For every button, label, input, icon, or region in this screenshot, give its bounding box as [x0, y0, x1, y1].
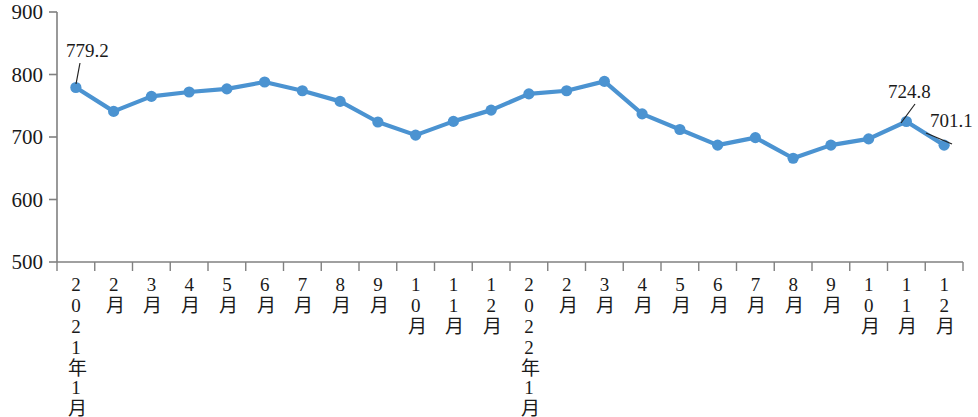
x-axis-tick-label: 11月: [444, 274, 463, 335]
data-point-marker: [788, 153, 799, 164]
x-axis: [57, 262, 963, 271]
x-axis-tick-label: 5月: [670, 274, 689, 314]
data-point-marker: [523, 88, 534, 99]
data-point-marker: [561, 85, 572, 96]
data-point-marker: [184, 86, 195, 97]
data-point-marker: [410, 130, 421, 141]
first-point-label: 779.2: [66, 40, 109, 61]
first-point-label-leader: [76, 63, 80, 84]
dec-2022-label: 701.1: [930, 110, 973, 131]
data-series-line: [70, 76, 949, 164]
data-point-marker: [259, 76, 270, 87]
y-tick-label: 900: [12, 0, 44, 24]
x-axis-tick-label: 9月: [368, 274, 387, 314]
x-axis-tick-label: 10月: [406, 274, 425, 335]
x-axis-tick-label: 2022年1月: [519, 274, 538, 417]
x-axis-tick-label: 10月: [859, 274, 878, 335]
y-tick-label: 500: [12, 250, 44, 274]
y-tick-label: 600: [12, 188, 44, 212]
data-point-marker: [637, 108, 648, 119]
x-axis-tick-label: 8月: [784, 274, 803, 314]
data-point-marker: [108, 106, 119, 117]
x-axis-tick-label: 11月: [897, 274, 916, 335]
x-axis-tick-label: 2021年1月: [66, 274, 85, 417]
x-axis-tick-label: 9月: [821, 274, 840, 314]
x-axis-tick-label: 8月: [331, 274, 350, 314]
data-point-marker: [221, 83, 232, 94]
x-axis-tick-label: 3月: [142, 274, 161, 314]
x-axis-tick-label: 4月: [633, 274, 652, 314]
x-axis-tick-label: 3月: [595, 274, 614, 314]
series-line: [76, 81, 944, 158]
data-point-marker: [863, 133, 874, 144]
x-axis-tick-label: 12月: [935, 274, 954, 335]
data-point-marker: [486, 105, 497, 116]
data-point-marker: [674, 124, 685, 135]
x-axis-tick-label: 7月: [293, 274, 312, 314]
x-axis-tick-label: 4月: [180, 274, 199, 314]
y-tick-label: 700: [12, 125, 44, 149]
y-axis: 500600700800900: [12, 0, 58, 274]
data-point-marker: [825, 140, 836, 151]
data-point-marker: [712, 140, 723, 151]
nov-2022-label: 724.8: [888, 81, 931, 102]
x-axis-tick-label: 12月: [482, 274, 501, 335]
data-point-marker: [599, 76, 610, 87]
x-axis-tick-label: 7月: [746, 274, 765, 314]
data-point-marker: [146, 91, 157, 102]
data-point-marker: [750, 132, 761, 143]
data-point-marker: [335, 96, 346, 107]
x-axis-tick-label: 5月: [217, 274, 236, 314]
x-axis-tick-label: 2月: [104, 274, 123, 314]
x-axis-tick-label: 6月: [255, 274, 274, 314]
data-point-marker: [372, 116, 383, 127]
data-point-marker: [297, 85, 308, 96]
x-axis-tick-label: 2月: [557, 274, 576, 314]
x-axis-tick-label: 6月: [708, 274, 727, 314]
y-tick-label: 800: [12, 63, 44, 87]
data-point-marker: [448, 116, 459, 127]
